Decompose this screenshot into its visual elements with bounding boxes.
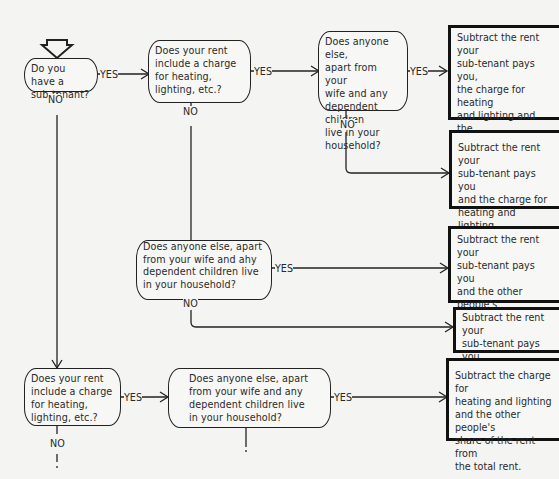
result-text: Subtract the charge for heating and ligh… xyxy=(455,369,553,473)
label-yes: YES xyxy=(254,66,272,77)
question-text: Does your rent include a charge for heat… xyxy=(155,44,244,96)
result-box-3: Subtract the rent your sub-tenant pays y… xyxy=(448,226,559,303)
question-anyone-else-household-2: Does anyone else, apart from your wife a… xyxy=(136,240,272,300)
label-yes: YES xyxy=(100,69,118,80)
question-text: Does anyone else, apart from your wife a… xyxy=(325,35,401,152)
label-no: NO xyxy=(340,119,355,130)
label-no: NO xyxy=(183,298,198,309)
result-box-2: Subtract the rent your sub-tenant pays y… xyxy=(449,130,559,209)
question-anyone-else-household-3: Does anyone else, apart from your wife a… xyxy=(168,368,331,428)
question-rent-includes-heating: Does your rent include a charge for heat… xyxy=(148,40,251,103)
label-no: NO xyxy=(183,106,198,117)
question-rent-includes-heating-2: Does your rent include a charge for heat… xyxy=(24,368,121,426)
result-box-1: Subtract the rent your sub-tenant pays y… xyxy=(448,25,559,120)
question-text: Does your rent include a charge for heat… xyxy=(31,372,114,424)
result-box-4: Subtract the rent your sub-tenant pays y… xyxy=(453,307,559,353)
question-have-subtenant: Do you have a sub-tenant? xyxy=(24,58,98,92)
label-yes: YES xyxy=(124,392,142,403)
result-box-5: Subtract the charge for heating and ligh… xyxy=(446,358,559,441)
question-anyone-else-household: Does anyone else, apart from your wife a… xyxy=(318,31,408,111)
question-text: Does anyone else, apart from your wife a… xyxy=(189,372,324,424)
label-yes: YES xyxy=(334,392,352,403)
label-yes: YES xyxy=(410,66,428,77)
label-yes: YES xyxy=(275,263,293,274)
label-no: NO xyxy=(48,94,63,105)
question-text: Does anyone else, apart from your wife a… xyxy=(143,241,265,291)
label-no: NO xyxy=(50,438,65,449)
